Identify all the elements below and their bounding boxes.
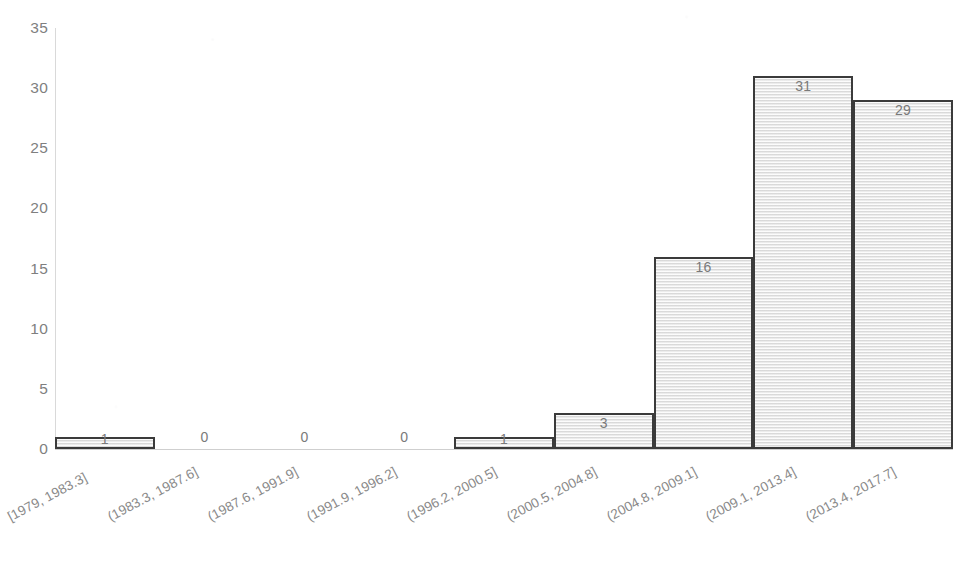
y-axis-tick-label: 5 (6, 380, 48, 398)
histogram-chart: 35302520151050 100013163129 [1979, 1983.… (0, 0, 967, 565)
x-axis-tick-label: (2000.5, 2004.8] (504, 464, 599, 524)
plot-area: 100013163129 (55, 28, 953, 449)
y-axis-tick-label: 25 (6, 139, 48, 157)
histogram-bin: 29 (853, 28, 953, 449)
x-axis-tick-label: (2004.8, 2009.1] (604, 464, 699, 524)
y-axis-tick-label: 15 (6, 260, 48, 278)
histogram-bin: 0 (354, 28, 454, 449)
bar-value-label: 0 (155, 429, 255, 445)
x-axis-tick-label: (2013.4, 2017.7] (803, 464, 898, 524)
bar-value-label: 29 (853, 102, 953, 118)
bar-value-label: 3 (554, 415, 654, 431)
histogram-bin: 0 (155, 28, 255, 449)
histogram-bin: 1 (55, 28, 155, 449)
y-axis-tick-label: 35 (6, 19, 48, 37)
histogram-bin: 3 (554, 28, 654, 449)
bar-value-label: 0 (255, 429, 355, 445)
y-axis: 35302520151050 (0, 0, 48, 565)
y-axis-tick-label: 20 (6, 199, 48, 217)
y-axis-tick-label: 10 (6, 320, 48, 338)
x-axis-tick-label: (1987.6, 1991.9] (205, 464, 300, 524)
bar-value-label: 0 (354, 429, 454, 445)
x-axis-tick-label: (2009.1, 2013.4] (703, 464, 798, 524)
bar-value-label: 16 (654, 259, 754, 275)
y-axis-tick-label: 0 (6, 440, 48, 458)
x-axis-tick-label: (1996.2, 2000.5] (404, 464, 499, 524)
bar (853, 100, 953, 449)
y-axis-tick-label: 30 (6, 79, 48, 97)
bar-value-label: 1 (454, 431, 554, 447)
histogram-bin: 1 (454, 28, 554, 449)
bar-value-label: 31 (753, 78, 853, 94)
histogram-bin: 31 (753, 28, 853, 449)
histogram-bin: 16 (654, 28, 754, 449)
bar-value-label: 1 (55, 431, 155, 447)
x-axis-tick-label: (1983.3, 1987.6] (105, 464, 200, 524)
histogram-bin: 0 (255, 28, 355, 449)
bar (753, 76, 853, 449)
x-axis: [1979, 1983.3](1983.3, 1987.6](1987.6, 1… (55, 449, 953, 565)
x-axis-tick-label: (1991.9, 1996.2] (304, 464, 399, 524)
bar (654, 257, 754, 449)
